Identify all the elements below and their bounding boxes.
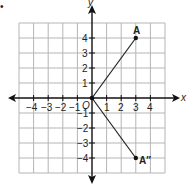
point-A-double-prime-label: A″ <box>139 155 151 166</box>
point-A-double-prime <box>134 156 138 160</box>
origin-label: O <box>82 100 90 111</box>
x-tick-label: 2 <box>118 102 124 113</box>
bullet: • <box>0 1 4 12</box>
y-tick-label: −3 <box>77 138 89 149</box>
y-tick-label: 1 <box>82 78 88 89</box>
point-origin <box>90 96 95 101</box>
point-A <box>134 36 138 40</box>
y-tick-label: 4 <box>82 33 88 44</box>
x-tick-label: 4 <box>147 102 153 113</box>
x-tick-label: −2 <box>55 102 67 113</box>
y-tick-label: −2 <box>77 123 89 134</box>
x-tick-label: −3 <box>41 102 53 113</box>
point-A-label: A <box>133 25 140 36</box>
y-axis-label: y <box>87 0 94 8</box>
x-axis-label: x <box>180 92 187 103</box>
x-tick-label: 3 <box>133 102 139 113</box>
y-tick-label: 3 <box>82 48 88 59</box>
y-tick-label: −4 <box>77 153 89 164</box>
x-tick-label: −4 <box>26 102 38 113</box>
coordinate-plane: y x • −4 −3 −2 −1 1 2 3 4 4 3 2 1 −1 −2 … <box>0 0 189 185</box>
x-tick-label: 1 <box>104 102 110 113</box>
y-tick-label: 2 <box>82 63 88 74</box>
